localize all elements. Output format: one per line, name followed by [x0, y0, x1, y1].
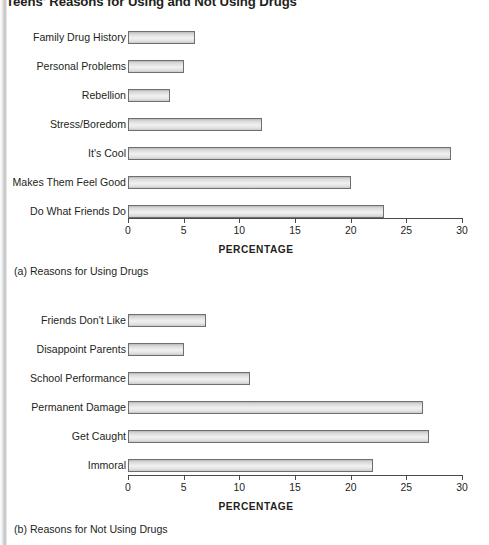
panel-caption-a: (a) Reasons for Using Drugs	[14, 265, 148, 277]
x-axis-tick	[462, 475, 463, 480]
category-label: Disappoint Parents	[36, 344, 126, 355]
category-labels-b: Friends Don't LikeDisappoint ParentsScho…	[0, 305, 126, 480]
x-axis-tick-label: 0	[125, 225, 131, 236]
bar	[128, 176, 351, 189]
plot-area-b	[128, 305, 468, 480]
x-axis-tick	[128, 475, 129, 480]
category-label: Rebellion	[82, 90, 126, 101]
x-axis-tick	[406, 218, 407, 223]
x-axis-tick-label: 25	[401, 225, 413, 236]
x-axis-tick-label: 0	[125, 482, 131, 493]
bar	[128, 372, 250, 385]
x-axis-tick-label: 5	[181, 482, 187, 493]
category-labels-a: Family Drug HistoryPersonal ProblemsRebe…	[0, 22, 126, 222]
category-label: Personal Problems	[37, 61, 127, 72]
bar	[128, 205, 384, 218]
chart-panel-b: Friends Don't LikeDisappoint ParentsScho…	[0, 305, 489, 545]
x-axis-tick-label: 20	[345, 482, 357, 493]
chart-panel-a: Family Drug HistoryPersonal ProblemsRebe…	[0, 22, 489, 272]
x-axis-title-a: PERCENTAGE	[219, 244, 294, 255]
x-axis-tick-label: 25	[401, 482, 413, 493]
x-axis-tick	[184, 218, 185, 223]
category-label: Makes Them Feel Good	[13, 177, 126, 188]
category-label: It's Cool	[88, 148, 126, 159]
category-label: Get Caught	[72, 431, 126, 442]
x-axis-tick	[406, 475, 407, 480]
category-label: Friends Don't Like	[41, 315, 126, 326]
x-axis-tick-label: 30	[456, 482, 468, 493]
category-label: Stress/Boredom	[50, 119, 126, 130]
x-axis-tick	[184, 475, 185, 480]
x-axis-title-b: PERCENTAGE	[219, 501, 294, 512]
x-axis-tick	[239, 218, 240, 223]
bar	[128, 401, 423, 414]
bar	[128, 343, 184, 356]
x-axis-tick-label: 30	[456, 225, 468, 236]
x-axis-ticks-a: 051015202530	[0, 218, 489, 242]
bar	[128, 118, 262, 131]
x-axis-tick-label: 15	[289, 482, 301, 493]
x-axis-tick	[462, 218, 463, 223]
bar	[128, 314, 206, 327]
category-label: School Performance	[30, 373, 126, 384]
panel-caption-b: (b) Reasons for Not Using Drugs	[14, 523, 168, 535]
x-axis-tick-label: 10	[234, 482, 246, 493]
bar	[128, 89, 170, 102]
bar	[128, 459, 373, 472]
bar	[128, 60, 184, 73]
x-axis-tick	[351, 218, 352, 223]
category-label: Immoral	[88, 460, 126, 471]
bar	[128, 430, 429, 443]
x-axis-tick	[239, 475, 240, 480]
category-label: Do What Friends Do	[30, 206, 126, 217]
figure-title: Teens' Reasons for Using and Not Using D…	[6, 0, 297, 9]
x-axis-ticks-b: 051015202530	[0, 475, 489, 499]
x-axis-tick	[351, 475, 352, 480]
bar	[128, 31, 195, 44]
x-axis-tick	[128, 218, 129, 223]
bar	[128, 147, 451, 160]
x-axis-tick-label: 10	[234, 225, 246, 236]
x-axis-tick	[295, 475, 296, 480]
x-axis-tick-label: 15	[289, 225, 301, 236]
category-label: Permanent Damage	[31, 402, 126, 413]
x-axis-tick-label: 5	[181, 225, 187, 236]
x-axis-tick	[295, 218, 296, 223]
category-label: Family Drug History	[33, 32, 126, 43]
x-axis-tick-label: 20	[345, 225, 357, 236]
plot-area-a	[128, 22, 468, 222]
